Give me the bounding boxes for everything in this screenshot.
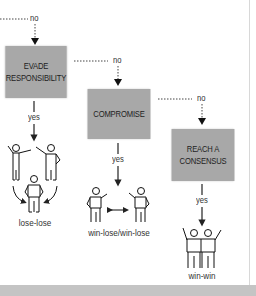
box-reach-consensus: REACH A CONSENSUS (172, 129, 235, 181)
yes-label: yes (112, 154, 124, 164)
box-line2: CONSENSUS (180, 155, 227, 167)
box-line1: COMPROMISE (93, 108, 144, 120)
page-edge-divider (249, 0, 250, 285)
win-lose-figures (87, 188, 149, 223)
yes-label: yes (196, 195, 208, 205)
no-label: no (113, 55, 122, 65)
yes-label: yes (28, 112, 40, 122)
box-line1: REACH A (187, 143, 219, 155)
bottom-band (0, 285, 256, 296)
outcome-label: lose-lose (13, 218, 58, 228)
box-line1: EVADE (24, 60, 49, 72)
win-win-figures (183, 228, 221, 268)
outcome-label: win-win (183, 271, 221, 281)
no-label: no (30, 13, 39, 23)
lose-lose-figures (8, 145, 60, 213)
box-evade-responsibility: EVADE RESPONSIBILITY (5, 46, 66, 98)
outcome-label: win-lose/win-lose (82, 228, 156, 238)
box-compromise: COMPROMISE (88, 89, 151, 139)
arrow-down-icon (31, 38, 39, 45)
no-label: no (197, 93, 206, 103)
box-line2: RESPONSIBILITY (6, 72, 67, 84)
